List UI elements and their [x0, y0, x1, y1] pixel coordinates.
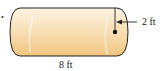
cylinder-body	[10, 8, 128, 56]
radius-label: 2 ft	[142, 16, 156, 27]
length-label: 8 ft	[59, 59, 73, 70]
center-dot	[113, 30, 117, 34]
cylinder-diagram: 2 ft 8 ft	[0, 0, 162, 71]
